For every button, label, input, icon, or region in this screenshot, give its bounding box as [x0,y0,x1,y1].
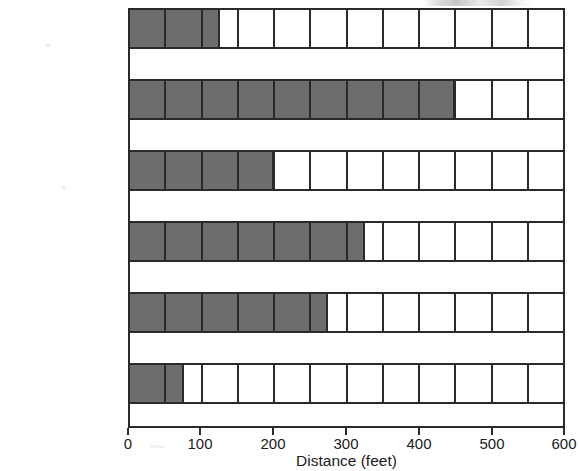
grid-cell [493,294,529,331]
grid-cell [456,294,492,331]
x-tick-label-600: 600 [534,435,579,452]
x-tick-label-500: 500 [462,435,522,452]
grid-cell [275,223,311,260]
grid-cell [311,294,347,331]
grid-cell [348,223,384,260]
grid-cell [384,81,420,118]
bar-row-ice-skating[interactable] [130,79,563,120]
row-gap [130,262,563,292]
grid-cell [493,223,529,260]
grid-cell [420,81,456,118]
grid-cell [493,152,529,189]
grid-cell [130,294,166,331]
x-tick-label-300: 300 [316,435,376,452]
bar-row-running[interactable] [130,221,563,262]
row-gap [130,191,563,221]
grid-cell [456,81,492,118]
x-tick-300 [345,428,347,435]
x-tick-label-0: 0 [98,435,158,452]
grid-cells [130,365,563,402]
grid-cells [130,152,563,189]
grid-cell [384,294,420,331]
grid-cells [130,10,563,47]
x-tick-label-100: 100 [170,435,230,452]
grid-cell [203,365,239,402]
paper-speckle [46,44,50,47]
grid-cell [166,10,202,47]
grid-cell [456,365,492,402]
grid-cell [420,223,456,260]
bar-row-running-hurdles[interactable] [130,292,563,333]
x-tick-400 [418,428,420,435]
x-tick-0 [127,428,129,435]
grid-cell [166,152,202,189]
x-tick-600 [563,428,565,435]
grid-cell [493,365,529,402]
grid-cell [420,294,456,331]
grid-cell [239,365,275,402]
grid-cell [311,223,347,260]
grid-cell [203,294,239,331]
x-axis-title: Distance (feet) [128,452,565,470]
grid-cell [130,10,166,47]
grid-cell [529,223,563,260]
row-gap [130,49,563,79]
grid-cell [456,10,492,47]
x-tick-200 [272,428,274,435]
scan-artifact-smudge [424,0,532,6]
grid-cell [239,152,275,189]
grid-cells [130,223,563,260]
bar-row-walking[interactable] [130,8,563,49]
x-tick-100 [199,428,201,435]
grid-cell [348,152,384,189]
row-gap [130,333,563,363]
grid-cell [275,152,311,189]
grid-cell [348,81,384,118]
plot-area [128,8,565,428]
bar-row-cross-country-skiing[interactable] [130,150,563,191]
row-gap [130,120,563,150]
grid-cell [529,81,563,118]
grid-cell [130,223,166,260]
grid-cell [420,152,456,189]
x-tick-label-200: 200 [243,435,303,452]
bar-row-swimming[interactable] [130,363,563,404]
paper-speckle [62,186,65,189]
grid-cell [311,365,347,402]
grid-cell [456,223,492,260]
grid-cell [456,152,492,189]
grid-cell [166,365,202,402]
grid-cell [384,10,420,47]
grid-cell [239,10,275,47]
grid-cell [529,294,563,331]
grid-cell [275,10,311,47]
grid-cell [203,223,239,260]
grid-cell [130,152,166,189]
grid-cell [493,10,529,47]
grid-cell [275,81,311,118]
grid-cell [348,294,384,331]
grid-cell [384,223,420,260]
grid-cell [275,365,311,402]
grid-cell [166,223,202,260]
grid-cell [203,10,239,47]
grid-cell [166,294,202,331]
grid-cell [493,81,529,118]
grid-cell [529,10,563,47]
grid-cell [348,10,384,47]
grid-cell [130,365,166,402]
grid-cell [166,81,202,118]
grid-cell [130,81,166,118]
grid-cell [384,365,420,402]
grid-cell [311,81,347,118]
grid-cell [529,152,563,189]
grid-cell [311,10,347,47]
grid-cells [130,81,563,118]
grid-cell [420,365,456,402]
grid-cell [529,365,563,402]
grid-cell [203,152,239,189]
grid-cell [311,152,347,189]
grid-cells [130,294,563,331]
grid-cell [239,294,275,331]
grid-cell [275,294,311,331]
